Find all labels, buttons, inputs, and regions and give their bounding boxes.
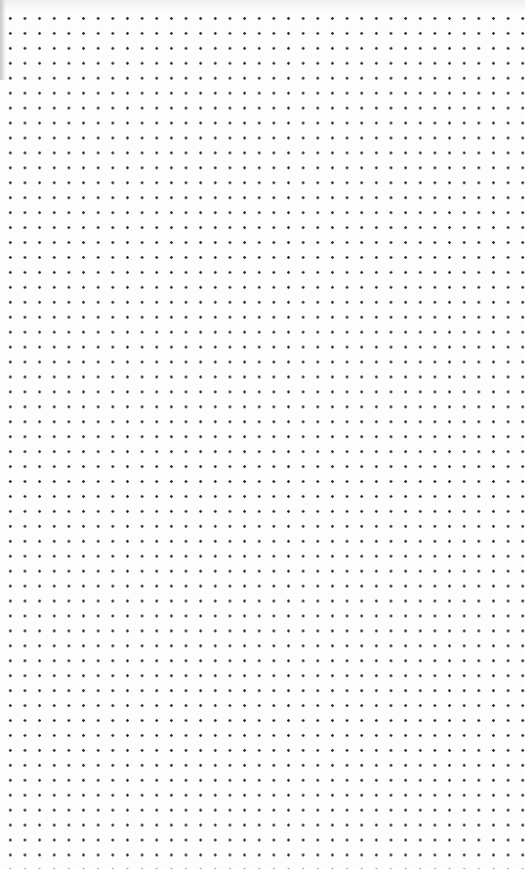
left-edge-shadow: [0, 0, 6, 80]
dot-grid: [3, 11, 525, 869]
dot-grid-paper: [0, 0, 525, 869]
